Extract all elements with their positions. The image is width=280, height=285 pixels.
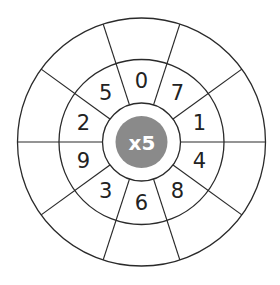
multiplier-label: x5: [129, 131, 156, 155]
factor-number: 7: [171, 81, 184, 105]
answer-cell[interactable]: [103, 220, 180, 266]
answer-cell[interactable]: [103, 18, 180, 64]
factor-number: 6: [135, 191, 148, 215]
factor-number: 3: [99, 179, 112, 203]
factor-number: 0: [135, 69, 148, 93]
factor-number: 9: [77, 149, 90, 173]
factor-number: 1: [193, 111, 206, 135]
factor-number: 4: [193, 149, 206, 173]
factor-number: 5: [99, 81, 112, 105]
factor-number: 8: [171, 179, 184, 203]
multiplication-wheel: x5 0714863925: [0, 0, 280, 285]
factor-number: 2: [77, 111, 90, 135]
